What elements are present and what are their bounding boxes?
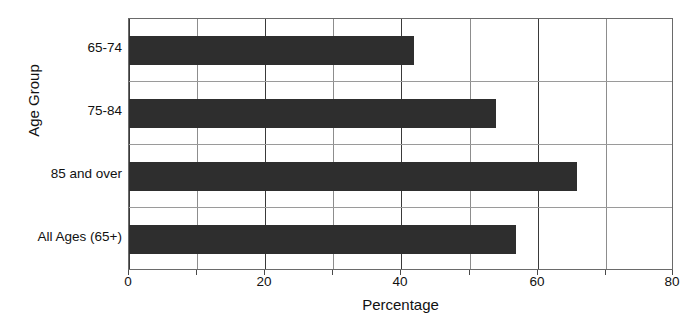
y-tick-label-3: All Ages (65+) xyxy=(0,229,122,244)
x-axis-title: Percentage xyxy=(128,296,673,313)
y-tick-label-0: 65-74 xyxy=(0,40,122,55)
bar-all-ages-65plus[interactable] xyxy=(129,225,516,254)
bar-65-74[interactable] xyxy=(129,36,414,65)
x-tick-label-80: 80 xyxy=(652,274,692,289)
x-tick-label-40: 40 xyxy=(380,274,420,289)
plot-area xyxy=(128,18,673,270)
bar-85-and-over[interactable] xyxy=(129,162,577,191)
x-tick-label-20: 20 xyxy=(244,274,284,289)
x-tick-label-0: 0 xyxy=(108,274,148,289)
chart-figure: Age Group 65-74 75-84 85 and over All Ag… xyxy=(0,0,700,328)
y-tick-label-1: 75-84 xyxy=(0,103,122,118)
gridline-category-3 xyxy=(129,207,672,208)
bar-75-84[interactable] xyxy=(129,99,496,128)
gridline-category-2 xyxy=(129,144,672,145)
x-tick-label-60: 60 xyxy=(517,274,557,289)
x-axis-tick-labels: 0 20 40 60 80 xyxy=(0,274,700,294)
y-axis-tick-labels: 65-74 75-84 85 and over All Ages (65+) xyxy=(0,18,122,270)
y-tick-label-2: 85 and over xyxy=(0,166,122,181)
gridline-category-1 xyxy=(129,81,672,82)
